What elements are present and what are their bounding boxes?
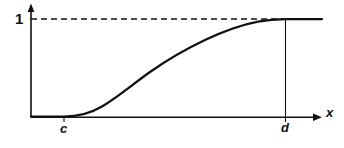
x-axis-tick-label-c: c xyxy=(60,122,67,135)
x-axis-arrow-icon xyxy=(313,113,322,121)
x-axis-name-label: x xyxy=(326,106,333,119)
x-axis-tick-label-d: d xyxy=(281,121,289,134)
cdf-figure: 1 c d x xyxy=(0,0,344,148)
plot-canvas xyxy=(0,0,344,148)
cdf-curve xyxy=(31,19,322,117)
y-axis-arrow-icon xyxy=(28,4,35,13)
y-axis-tick-label-one: 1 xyxy=(15,11,23,26)
